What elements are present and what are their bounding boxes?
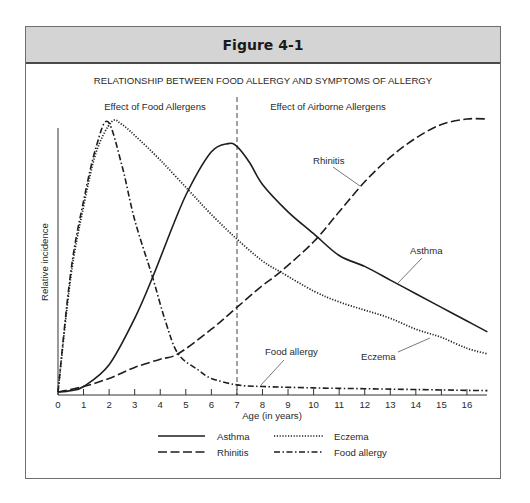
x-tick-label: 2 xyxy=(106,399,111,410)
x-tick-label: 16 xyxy=(462,399,473,410)
callout-eczema: Eczema xyxy=(361,351,396,362)
callout-food-allergy-leader xyxy=(261,360,284,385)
x-tick-label: 4 xyxy=(158,399,164,410)
x-tick-label: 0 xyxy=(55,399,60,410)
x-tick-label: 10 xyxy=(308,399,319,410)
y-axis-label: Relative incidence xyxy=(39,223,50,301)
x-tick-label: 6 xyxy=(209,399,214,410)
callout-food-allergy: Food allergy xyxy=(265,346,318,357)
callout-rhinitis: Rhinitis xyxy=(313,155,345,166)
legend: Asthma Eczema Rhinitis Food allergy xyxy=(158,431,387,458)
x-tick-label: 5 xyxy=(183,399,188,410)
x-tick-label: 3 xyxy=(132,399,137,410)
chart: RELATIONSHIP BETWEEN FOOD ALLERGY AND SY… xyxy=(0,0,530,503)
legend-label-eczema: Eczema xyxy=(334,431,369,442)
x-axis-ticks: 012345678910111213141516 xyxy=(55,389,472,410)
callout-rhinitis-leader xyxy=(333,167,360,186)
callout-eczema-leader xyxy=(398,338,430,352)
x-tick-label: 9 xyxy=(285,399,290,410)
x-tick-label: 8 xyxy=(260,399,265,410)
x-tick-label: 11 xyxy=(334,399,344,410)
legend-label-food-allergy: Food allergy xyxy=(334,447,387,458)
x-tick-label: 14 xyxy=(411,399,422,410)
region-label-food: Effect of Food Allergens xyxy=(104,101,206,112)
x-tick-label: 15 xyxy=(436,399,447,410)
callout-asthma: Asthma xyxy=(410,245,443,256)
x-tick-label: 1 xyxy=(81,399,86,410)
region-label-airborne: Effect of Airborne Allergens xyxy=(270,101,386,112)
legend-label-asthma: Asthma xyxy=(217,431,250,442)
legend-label-rhinitis: Rhinitis xyxy=(217,447,249,458)
x-tick-label: 12 xyxy=(359,399,370,410)
x-tick-label: 7 xyxy=(234,399,239,410)
x-tick-label: 13 xyxy=(385,399,396,410)
chart-title: RELATIONSHIP BETWEEN FOOD ALLERGY AND SY… xyxy=(94,75,433,86)
callout-asthma-leader xyxy=(398,258,422,283)
x-axis-label: Age (in years) xyxy=(242,410,302,421)
